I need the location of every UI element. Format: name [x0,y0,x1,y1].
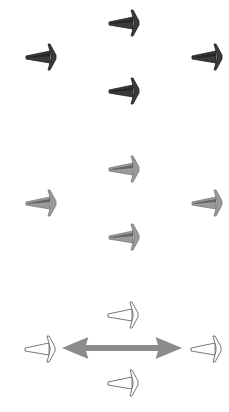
cone-icon-top [107,8,143,38]
cone-icon-top [107,154,143,184]
cone-icon-bottom [107,76,143,106]
cone-icon-left [24,188,60,218]
cone-icon-top [106,300,142,330]
cone-icon-left [24,42,60,72]
cone-icon-right [190,188,226,218]
cone-icon-bottom [107,222,143,252]
cone-icon-right [189,334,225,364]
cone-icon-bottom [106,368,142,398]
cone-icon-left [23,334,59,364]
double-arrow-icon [62,337,182,363]
cone-icon-right [190,42,226,72]
